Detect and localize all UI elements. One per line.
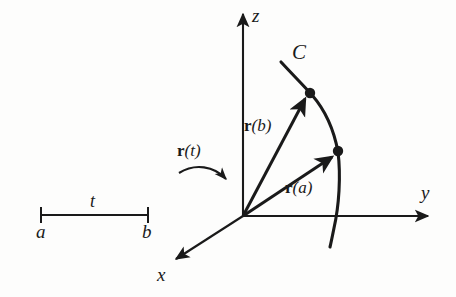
x-axis xyxy=(176,216,243,259)
z-axis-label: z xyxy=(252,6,259,25)
curve-point-b-dot xyxy=(305,88,315,98)
vector-r-a-label: r(a) xyxy=(285,179,312,196)
x-axis-label: x xyxy=(157,265,165,284)
interval-end-label: b xyxy=(142,222,152,241)
y-axis-label: y xyxy=(421,183,429,202)
vector-r-a-arg: (a) xyxy=(293,178,313,197)
mapping-name: r xyxy=(177,141,185,160)
mapping-arrow xyxy=(179,167,226,179)
mapping-arg: (t) xyxy=(185,141,201,160)
interval-parameter-label: t xyxy=(90,192,95,210)
curve-label: C xyxy=(292,42,306,63)
curve-point-a-dot xyxy=(333,146,343,156)
interval-start-label: a xyxy=(36,222,46,241)
vector-r-a-name: r xyxy=(285,178,293,197)
vector-function-diagram: z y x C t a b r(t) r(b) r(a) xyxy=(0,0,456,297)
mapping-label: r(t) xyxy=(177,142,201,159)
vector-r-b-label: r(b) xyxy=(244,117,271,134)
vector-r-b-name: r xyxy=(244,116,252,135)
vector-r-b-arg: (b) xyxy=(252,116,272,135)
diagram-canvas xyxy=(0,0,456,297)
